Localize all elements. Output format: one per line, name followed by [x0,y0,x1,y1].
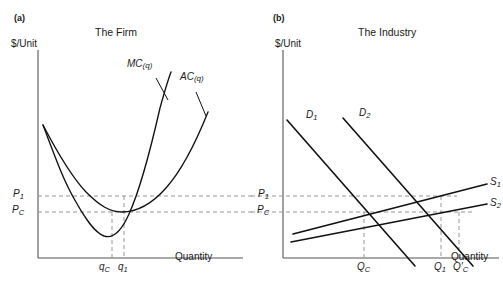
x-tick-qc-main-a: q [99,261,105,272]
curve-label-d1: D1 [306,110,317,120]
y-tick-pc-main-b: P [257,204,264,215]
curve-label-d2: D2 [359,108,370,118]
y-tick-label-pc-a: PC [12,205,24,215]
curve-label-s1: S1 [490,177,501,187]
curve-label-s2-main: S [490,197,497,208]
x-tick-q1-main-b: Q [434,261,442,272]
y-tick-label-p1-a: P1 [13,189,24,199]
curve-label-mc-paren: (q) [143,61,153,70]
panel-the-industry: (b) $/Unit The Industry Quantity D1 D2 S… [251,0,503,286]
y-tick-p1-main-b: P [258,188,265,199]
y-tick-p1-sub-a: 1 [20,192,24,201]
y-tick-p1-main-a: P [13,188,20,199]
y-tick-label-pc-b: PC [257,205,269,215]
curve-label-d1-sub: 1 [313,113,317,122]
leader-line-mc [156,78,168,100]
curve-label-ac: AC(q) [180,72,204,82]
y-tick-label-p1-b: P1 [258,189,269,199]
curve-label-d2-sub: 2 [366,111,370,120]
x-tick-label-qc-b: QC [357,262,370,272]
x-tick-label-q1-b: Q1 [434,262,446,272]
curve-demand-1 [287,120,415,266]
x-tick-q1-sub-a: 1 [124,265,128,274]
x-tick-q1-main-a: q [118,261,124,272]
curve-label-mc: MC(q) [127,59,152,69]
y-tick-pc-sub-a: C [19,208,24,217]
leader-line-ac [196,92,206,116]
x-tick-qcprime-sub-b: C [463,265,468,274]
curve-label-ac-paren: (q) [194,74,204,83]
x-tick-label-qcprime-b: Q'C [453,262,468,272]
x-tick-qcprime-main-b: Q' [453,261,463,272]
curve-label-s2-sub: 2 [497,201,501,210]
x-tick-label-q1-a: q1 [118,262,128,272]
y-tick-p1-sub-b: 1 [265,192,269,201]
panel-tag-b: (b) [273,14,285,23]
y-axis-label-b: $/Unit [275,39,301,49]
y-tick-pc-main-a: P [12,204,19,215]
x-tick-qc-sub-b: C [365,265,370,274]
panel-a-plot [0,0,252,286]
y-axis-label-a: $/Unit [11,39,37,49]
panel-title-a: The Firm [95,27,137,38]
x-tick-label-qc-a: qC [99,262,110,272]
curve-label-s1-main: S [490,176,497,187]
curve-average-cost [43,112,208,212]
curve-label-s2: S2 [490,198,501,208]
x-tick-qc-main-b: Q [357,261,365,272]
curve-label-mc-main: MC [127,58,143,69]
panel-tag-a: (a) [14,14,25,23]
y-tick-pc-sub-b: C [264,208,269,217]
panel-title-b: The Industry [358,27,416,38]
x-tick-qc-sub-a: C [105,265,110,274]
x-tick-q1-sub-b: 1 [442,265,446,274]
panel-the-firm: (a) $/Unit The Firm Quantity MC(q) AC(q)… [0,0,252,286]
curve-label-ac-main: AC [180,71,194,82]
curve-label-s1-sub: 1 [497,180,501,189]
economics-figure: (a) $/Unit The Firm Quantity MC(q) AC(q)… [0,0,503,286]
x-axis-label-a: Quantity [175,252,212,262]
